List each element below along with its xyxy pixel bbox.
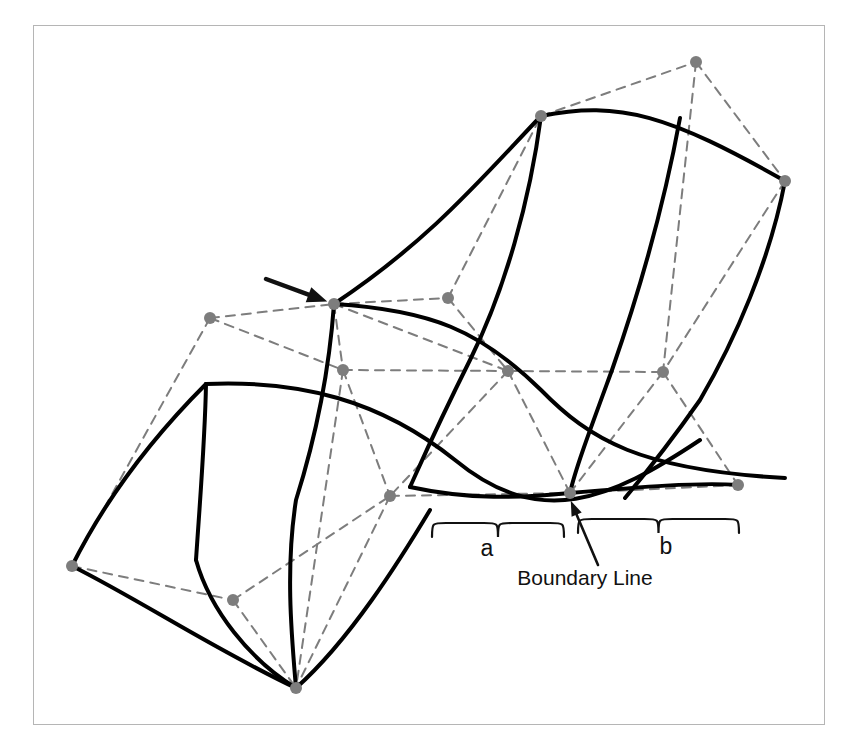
boundary-line-label: Boundary Line	[517, 566, 652, 589]
surface-curve	[570, 118, 680, 493]
control-point-dot	[328, 298, 340, 310]
control-point-dot	[337, 364, 349, 376]
control-mesh-edge	[508, 371, 663, 372]
control-point-dot	[384, 490, 396, 502]
control-point-dot	[657, 366, 669, 378]
span-label-b: b	[660, 533, 673, 559]
surface-curve	[410, 487, 570, 497]
brace-b	[578, 519, 739, 533]
control-mesh-edge	[663, 181, 785, 372]
control-point-dot	[227, 594, 239, 606]
figure-page: a b Boundary Line	[0, 0, 850, 748]
surface-curve	[290, 304, 334, 688]
control-point-dot	[535, 110, 547, 122]
control-point-dot	[779, 175, 791, 187]
surface-curve	[72, 384, 206, 566]
control-mesh-edge	[448, 298, 508, 371]
control-mesh-edge	[696, 62, 785, 181]
surface-curve	[206, 384, 700, 501]
control-mesh-edge	[210, 304, 334, 318]
control-point-dot	[690, 56, 702, 68]
control-point-dot	[290, 682, 302, 694]
control-point-dot	[732, 479, 744, 491]
control-mesh-edge	[334, 298, 448, 304]
surface-curve	[410, 116, 541, 487]
span-label-a: a	[481, 535, 494, 561]
control-mesh-edge	[210, 318, 343, 370]
surface-curve	[72, 566, 296, 688]
surface-patch-illustration: a b Boundary Line	[0, 0, 850, 748]
control-point-dot	[442, 292, 454, 304]
control-mesh-edge	[390, 371, 508, 496]
brace-a	[432, 523, 564, 537]
control-point-dot	[204, 312, 216, 324]
control-point-arrow	[266, 279, 327, 302]
control-point-dot	[502, 365, 514, 377]
surface-curve-group	[72, 110, 785, 688]
control-mesh-edge	[343, 370, 508, 371]
surface-curve	[196, 384, 206, 560]
control-mesh-edge	[334, 304, 343, 370]
surface-curve	[541, 110, 785, 181]
control-mesh-edge	[343, 370, 390, 496]
surface-curve	[296, 510, 430, 688]
surface-curve	[334, 116, 541, 304]
control-point-group	[66, 56, 791, 694]
control-mesh-group	[72, 62, 785, 688]
surface-curve	[625, 181, 785, 498]
control-mesh-edge	[541, 62, 696, 116]
control-mesh-edge	[570, 372, 663, 493]
surface-curve	[196, 560, 296, 688]
boundary-line-arrow	[571, 501, 598, 565]
control-mesh-edge	[663, 62, 696, 372]
control-point-dot	[564, 487, 576, 499]
control-mesh-edge	[448, 116, 541, 298]
control-point-dot	[66, 560, 78, 572]
